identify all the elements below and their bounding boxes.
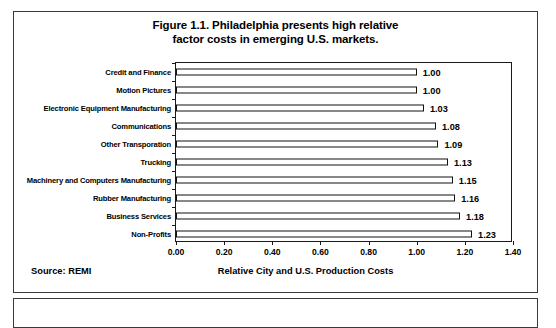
category-label: Business Services [106, 212, 171, 221]
chart-title: Figure 1.1. Philadelphia presents high r… [14, 18, 537, 46]
category-label: Communications [112, 122, 172, 131]
x-axis-tick [224, 241, 225, 245]
category-label: Machinery and Computers Manufacturing [27, 176, 171, 185]
x-axis-tick-label: 0.40 [264, 247, 281, 257]
x-axis-tick-label: 1.40 [505, 247, 522, 257]
bar-value-label: 1.18 [466, 211, 484, 221]
bar-row: Motion Pictures1.00 [176, 81, 511, 99]
category-label: Credit and Finance [105, 68, 171, 77]
y-axis-tick [172, 99, 176, 100]
x-axis-tick [417, 241, 418, 245]
bar-value-label: 1.15 [459, 175, 477, 185]
category-label: Non-Profits [131, 230, 171, 239]
figure-container: Figure 1.1. Philadelphia presents high r… [13, 11, 538, 293]
bar-row: Business Services1.18 [176, 207, 511, 225]
category-label: Motion Pictures [116, 86, 171, 95]
bar-value-label: 1.23 [478, 229, 496, 239]
y-axis-tick [172, 81, 176, 82]
y-axis-tick [172, 189, 176, 190]
bar-row: Trucking1.13 [176, 153, 511, 171]
bar: 1.23 [176, 231, 472, 238]
bar-value-label: 1.09 [444, 139, 462, 149]
bar: 1.00 [176, 69, 417, 76]
x-axis-tick-label: 1.20 [456, 247, 473, 257]
x-axis-tick [513, 241, 514, 245]
y-axis-tick [172, 63, 176, 64]
x-axis-tick-label: 1.00 [408, 247, 425, 257]
x-axis-tick-label: 0.80 [360, 247, 377, 257]
bar-row: Rubber Manufacturing1.16 [176, 189, 511, 207]
bar-rows: Credit and Finance1.00Motion Pictures1.0… [176, 63, 511, 241]
plot-area: Credit and Finance1.00Motion Pictures1.0… [175, 62, 512, 242]
y-axis-tick [172, 135, 176, 136]
bar-value-label: 1.00 [423, 85, 441, 95]
chart-title-line-1: Figure 1.1. Philadelphia presents high r… [14, 18, 537, 32]
bar-row: Electronic Equipment Manufacturing1.03 [176, 99, 511, 117]
y-axis-tick [172, 207, 176, 208]
bar-value-label: 1.08 [442, 121, 460, 131]
y-axis-tick [172, 117, 176, 118]
bar: 1.08 [176, 123, 436, 130]
bar-row: Other Transporation1.09 [176, 135, 511, 153]
y-axis-tick [172, 171, 176, 172]
bar-value-label: 1.13 [454, 157, 472, 167]
x-axis-tick [272, 241, 273, 245]
bar-row: Credit and Finance1.00 [176, 63, 511, 81]
bar-row: Machinery and Computers Manufacturing1.1… [176, 171, 511, 189]
bar-value-label: 1.16 [461, 193, 479, 203]
y-axis-tick [172, 225, 176, 226]
bar: 1.18 [176, 213, 460, 220]
x-axis-tick [176, 241, 177, 245]
category-label: Rubber Manufacturing [93, 194, 171, 203]
x-axis-tick [320, 241, 321, 245]
next-figure-container [13, 298, 538, 328]
bar-row: Communications1.08 [176, 117, 511, 135]
bar-value-label: 1.03 [430, 103, 448, 113]
bar-value-label: 1.00 [423, 67, 441, 77]
x-axis-title: Relative City and U.S. Production Costs [14, 266, 537, 276]
bar: 1.16 [176, 195, 455, 202]
bar: 1.00 [176, 87, 417, 94]
x-axis-tick-label: 0.60 [312, 247, 329, 257]
category-label: Other Transporation [101, 140, 171, 149]
bar: 1.13 [176, 159, 448, 166]
bar-row: Non-Profits1.23 [176, 225, 511, 243]
category-label: Electronic Equipment Manufacturing [44, 104, 171, 113]
x-axis-tick-label: 0.00 [168, 247, 185, 257]
bar: 1.03 [176, 105, 424, 112]
bar: 1.09 [176, 141, 438, 148]
x-axis-tick-label: 0.20 [216, 247, 233, 257]
category-label: Trucking [141, 158, 171, 167]
bar: 1.15 [176, 177, 453, 184]
y-axis-tick [172, 153, 176, 154]
x-axis-tick [369, 241, 370, 245]
chart-title-line-2: factor costs in emerging U.S. markets. [14, 32, 537, 46]
x-axis-tick [465, 241, 466, 245]
